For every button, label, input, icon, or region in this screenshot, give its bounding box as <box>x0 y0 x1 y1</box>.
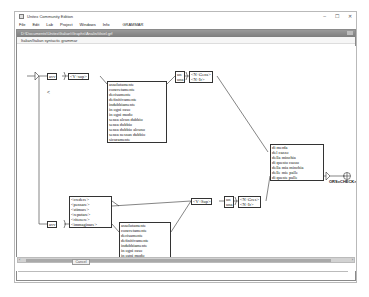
node-nouns-bottom[interactable]: <N+Gres> <N+Ir> <box>238 196 261 208</box>
menu-file[interactable]: File <box>19 22 25 27</box>
output-label: ORS=CHECK> <box>329 179 356 184</box>
scroll-right-icon[interactable]: › <box>352 258 353 262</box>
node-verbs[interactable]: <credere> <pensare> <stimare> <reputare>… <box>69 196 112 228</box>
node-un-una-bottom[interactable]: un una <box>224 196 234 208</box>
cancel-button[interactable]: Cancel <box>72 259 90 265</box>
menubar: File Edit Lab Project Windows Info GRAMM… <box>15 21 356 28</box>
unitex-window: Unitex Community Edition – ☐ ✕ File Edit… <box>14 11 357 283</box>
scroll-left-icon-2[interactable]: ‹ <box>19 258 20 262</box>
menu-windows[interactable]: Windows <box>80 22 96 27</box>
menu-grammar[interactable]: GRAMMAR <box>122 22 143 27</box>
node-avv-bottom[interactable]: avv <box>47 221 57 228</box>
node-avv-top[interactable]: avv <box>47 73 57 80</box>
node-v-sup-bottom[interactable]: <V+Sup> <box>191 198 212 205</box>
app-icon <box>19 14 24 19</box>
menu-project[interactable]: Project <box>60 22 72 27</box>
bottom-panel: ‹ › Cancel <box>16 257 356 271</box>
minimize-icon[interactable]: – <box>323 13 326 19</box>
node-nouns-top[interactable]: <N+Gens> <N+Ir> <box>189 71 213 83</box>
close-icon[interactable]: ✕ <box>348 13 352 19</box>
window-titlebar: Unitex Community Edition – ☐ ✕ <box>15 12 356 21</box>
maximize-icon[interactable]: ☐ <box>335 13 339 19</box>
window-controls: – ☐ ✕ <box>323 13 352 19</box>
node-un-una-top[interactable]: un una <box>175 71 185 83</box>
window-title: Unitex Community Edition <box>27 14 73 19</box>
node-insults[interactable]: di merda del cazzo della minchia di ques… <box>270 144 324 181</box>
node-v-sup-top[interactable]: <V+sup> <box>68 73 89 80</box>
menu-edit[interactable]: Edit <box>32 22 39 27</box>
graph-file-path: D:\Documents\Unitex\Italian\Graphs\Anali… <box>21 31 112 36</box>
menu-info[interactable]: Info <box>103 22 110 27</box>
bottom-horizontal-scrollbar[interactable]: ‹ › <box>17 257 355 263</box>
menu-lab[interactable]: Lab <box>46 22 53 27</box>
frame-control-icon[interactable] <box>347 31 353 35</box>
node-adverbs-top[interactable]: assolutamente concretamente decisamente … <box>107 81 167 143</box>
graph-frame: D:\Documents\Unitex\Italian\Graphs\Anali… <box>16 29 356 281</box>
graph-canvas[interactable]: < avv <V+sup> assolutamente concretament… <box>23 46 356 265</box>
svg-text:<: < <box>47 89 50 95</box>
graph-header: Italian/Italian syntactic grammar <box>17 37 355 44</box>
graph-frame-titlebar[interactable]: D:\Documents\Unitex\Italian\Graphs\Anali… <box>17 30 355 37</box>
